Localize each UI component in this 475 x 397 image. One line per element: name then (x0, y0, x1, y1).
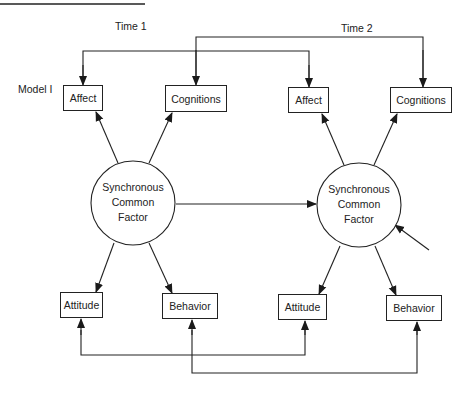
loading-attitude-2 (319, 246, 340, 294)
affect-box-time2: Affect (288, 87, 329, 113)
affect-label-time1: Affect (70, 92, 97, 104)
cognitions-box-time1: Cognitions (165, 85, 227, 112)
loading-affect-2 (322, 114, 344, 165)
loading-cognitions-2 (374, 114, 397, 165)
loading-affect-1 (96, 112, 118, 163)
attitude-label-time1: Attitude (64, 299, 100, 311)
attitude-box-time1: Attitude (60, 292, 103, 318)
model-label: Model I (18, 83, 52, 95)
loading-cognitions-1 (149, 113, 172, 163)
time2-label: Time 2 (341, 22, 373, 34)
attitude-box-time2: Attitude (278, 294, 327, 320)
factor-text-time1: Synchronous Common Factor (93, 180, 173, 225)
attitude-label-time2: Attitude (285, 301, 321, 313)
behavior-box-time2: Behavior (386, 295, 442, 321)
behavior-box-time1: Behavior (162, 293, 218, 319)
attitude-correlation-line (81, 330, 305, 355)
diagram-lines (0, 0, 475, 397)
cognitions-label-time2: Cognitions (396, 94, 446, 106)
loading-behavior-1 (149, 243, 172, 293)
disturbance-path (395, 225, 429, 250)
affect-label-time2: Affect (295, 94, 322, 106)
factor-text-time2: Synchronous Common Factor (319, 182, 399, 227)
affect-box-time1: Affect (63, 85, 103, 111)
behavior-label-time1: Behavior (169, 300, 210, 312)
cognitions-label-time1: Cognitions (171, 93, 221, 105)
loading-behavior-2 (375, 246, 396, 295)
loading-attitude-1 (96, 243, 114, 292)
behavior-label-time2: Behavior (393, 302, 434, 314)
cognitions-box-time2: Cognitions (390, 87, 452, 113)
time1-label: Time 1 (115, 20, 147, 32)
